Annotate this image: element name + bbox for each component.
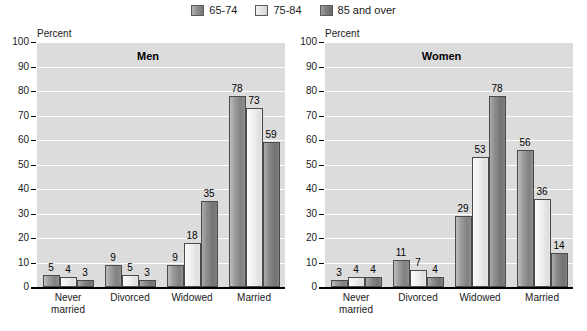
bar[interactable]: 4 xyxy=(60,277,77,287)
x-axis-line xyxy=(31,287,285,289)
bar[interactable]: 11 xyxy=(393,260,410,287)
bar[interactable]: 9 xyxy=(167,265,184,287)
bar-slot: 5 xyxy=(43,42,60,287)
y-tick-label-90: 90 xyxy=(5,62,29,72)
bar[interactable]: 59 xyxy=(263,142,280,287)
bar-value-label: 3 xyxy=(144,268,150,278)
bar-slot: 29 xyxy=(455,42,472,287)
bar[interactable]: 53 xyxy=(472,157,489,287)
bar[interactable]: 5 xyxy=(122,275,139,287)
bar[interactable]: 3 xyxy=(139,280,156,287)
bar-slot: 4 xyxy=(348,42,365,287)
bar-slot: 7 xyxy=(410,42,427,287)
bar[interactable]: 7 xyxy=(410,270,427,287)
y-tick-mark-10 xyxy=(319,263,324,264)
bar-value-label: 5 xyxy=(48,263,54,273)
bar-slot: 35 xyxy=(201,42,218,287)
bar[interactable]: 5 xyxy=(43,275,60,287)
bar-group: 91835 xyxy=(161,42,223,287)
y-tick-mark-50 xyxy=(319,165,324,166)
legend-item-0: 65-74 xyxy=(191,5,237,16)
bar-groups: 3441174295378563614 xyxy=(325,42,573,287)
bar-value-label: 56 xyxy=(519,138,530,148)
y-tick-mark-0 xyxy=(31,287,36,288)
y-tick-label-60: 60 xyxy=(293,135,317,145)
bar-group: 295378 xyxy=(449,42,511,287)
bar[interactable]: 3 xyxy=(331,280,348,287)
chart-legend: 65-74 75-84 85 and over xyxy=(0,2,587,18)
y-tick-mark-70 xyxy=(319,116,324,117)
legend-item-2: 85 and over xyxy=(320,5,396,16)
y-tick-mark-0 xyxy=(319,287,324,288)
y-tick-label-60: 60 xyxy=(5,135,29,145)
bar-slot: 73 xyxy=(246,42,263,287)
bar-value-label: 5 xyxy=(127,263,133,273)
y-axis-label: Percent xyxy=(37,28,71,39)
bar-value-label: 14 xyxy=(553,241,564,251)
y-tick-label-0: 0 xyxy=(293,282,317,292)
y-axis-label: Percent xyxy=(325,28,359,39)
x-axis-label: Divorced xyxy=(99,292,161,322)
x-axis-label: Divorced xyxy=(387,292,449,322)
bar-value-label: 53 xyxy=(474,145,485,155)
legend-swatch-icon-0 xyxy=(191,5,204,16)
bar-value-label: 4 xyxy=(65,265,71,275)
y-tick-label-20: 20 xyxy=(293,233,317,243)
bar[interactable]: 29 xyxy=(455,216,472,287)
bar[interactable]: 56 xyxy=(517,150,534,287)
y-tick-label-0: 0 xyxy=(5,282,29,292)
bar[interactable]: 35 xyxy=(201,201,218,287)
y-tick-label-10: 10 xyxy=(293,258,317,268)
bar-slot: 11 xyxy=(393,42,410,287)
bar[interactable]: 14 xyxy=(551,253,568,287)
y-tick-label-10: 10 xyxy=(5,258,29,268)
bar[interactable]: 18 xyxy=(184,243,201,287)
y-tick-mark-40 xyxy=(319,189,324,190)
y-tick-label-40: 40 xyxy=(293,184,317,194)
bar-value-label: 3 xyxy=(82,268,88,278)
bar-value-label: 36 xyxy=(536,187,547,197)
y-tick-mark-30 xyxy=(31,214,36,215)
bar-value-label: 59 xyxy=(265,130,276,140)
bar-slot: 9 xyxy=(167,42,184,287)
y-tick-mark-90 xyxy=(31,67,36,68)
bar-value-label: 35 xyxy=(203,189,214,199)
legend-label-0: 65-74 xyxy=(209,5,237,16)
bar-group: 1174 xyxy=(387,42,449,287)
bar[interactable]: 78 xyxy=(489,96,506,287)
y-tick-label-30: 30 xyxy=(5,209,29,219)
bar-value-label: 7 xyxy=(415,258,421,268)
bar-value-label: 73 xyxy=(248,96,259,106)
bar[interactable]: 36 xyxy=(534,199,551,287)
bar[interactable]: 4 xyxy=(427,277,444,287)
y-tick-mark-60 xyxy=(319,140,324,141)
x-axis-label: Nevermarried xyxy=(37,292,99,322)
bar-value-label: 4 xyxy=(432,265,438,275)
bar[interactable]: 73 xyxy=(246,108,263,287)
bar-value-label: 4 xyxy=(370,265,376,275)
bar[interactable]: 3 xyxy=(77,280,94,287)
bar[interactable]: 4 xyxy=(348,277,365,287)
bar-group: 953 xyxy=(99,42,161,287)
y-tick-mark-100 xyxy=(319,42,324,43)
y-tick-mark-40 xyxy=(31,189,36,190)
bar-slot: 4 xyxy=(427,42,444,287)
bar[interactable]: 9 xyxy=(105,265,122,287)
bar-value-label: 9 xyxy=(110,253,116,263)
legend-label-1: 75-84 xyxy=(273,5,301,16)
y-tick-label-40: 40 xyxy=(5,184,29,194)
bar-value-label: 3 xyxy=(336,268,342,278)
y-tick-mark-80 xyxy=(31,91,36,92)
bar[interactable]: 78 xyxy=(229,96,246,287)
bar-slot: 18 xyxy=(184,42,201,287)
bar[interactable]: 4 xyxy=(365,277,382,287)
bar-group: 563614 xyxy=(511,42,573,287)
y-tick-label-80: 80 xyxy=(293,86,317,96)
y-tick-mark-50 xyxy=(31,165,36,166)
x-axis-labels: NevermarriedDivorcedWidowedMarried xyxy=(37,292,285,322)
y-tick-mark-20 xyxy=(31,238,36,239)
y-tick-label-50: 50 xyxy=(293,160,317,170)
bar-value-label: 11 xyxy=(396,248,406,258)
x-axis-label: Married xyxy=(511,292,573,322)
bar-groups: 54395391835787359 xyxy=(37,42,285,287)
